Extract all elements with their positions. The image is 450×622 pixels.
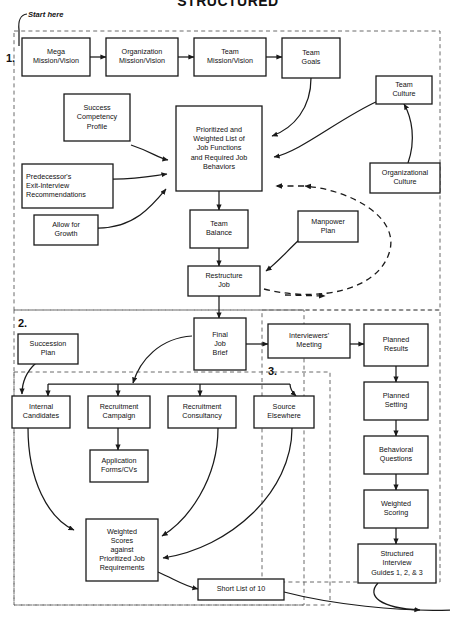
node-label: TeamGoals xyxy=(302,48,321,66)
start-here-label: Start here xyxy=(28,10,64,19)
node-label: Short List of 10 xyxy=(217,584,265,593)
node-label: OrganizationMission/Vision xyxy=(119,47,165,65)
node-label: RecruitmentConsultancy xyxy=(182,402,222,420)
node-source-elsewhere[interactable]: SourceElsewhere xyxy=(254,396,314,428)
edge-shortlist-outflow xyxy=(284,592,450,610)
node-predecessor-exit-interview[interactable]: Predecessor'sExit-InterviewRecommendatio… xyxy=(22,164,113,208)
node-restructure-job[interactable]: RestructureJob xyxy=(188,266,260,296)
node-label-line: Organization xyxy=(122,47,163,56)
node-label-line: Success xyxy=(83,103,111,112)
node-label-line: Competency xyxy=(77,112,118,121)
node-label-line: Questions xyxy=(380,454,413,463)
flowchart-diagram: STRUCTURED 1. 2. 3. Start here xyxy=(0,0,450,622)
node-label-line: Interview xyxy=(383,558,413,567)
node-team-goals[interactable]: TeamGoals xyxy=(282,38,340,78)
node-label-line: Behaviors xyxy=(203,162,235,171)
node-label-line: Prioritized Job xyxy=(99,554,145,563)
node-label-line: Application xyxy=(101,456,136,465)
node-team-culture[interactable]: TeamCulture xyxy=(376,76,432,104)
node-behavioral-questions[interactable]: BehavioralQuestions xyxy=(364,436,428,474)
edge-orgculture-to-teamculture xyxy=(404,104,412,163)
node-label: ApplicationForms/CVs xyxy=(101,456,137,474)
node-label: BehavioralQuestions xyxy=(379,445,413,463)
node-label-line: Culture xyxy=(392,89,415,98)
node-label-line: Planned xyxy=(383,335,409,344)
node-label-line: Job xyxy=(218,280,230,289)
node-label-line: Team xyxy=(395,80,413,89)
node-label-line: Short List of 10 xyxy=(217,584,265,593)
node-label-line: Allow for xyxy=(52,220,80,229)
node-label-line: Profile xyxy=(87,122,107,131)
node-allow-for-growth[interactable]: Allow forGrowth xyxy=(34,215,98,245)
node-label-line: Forms/CVs xyxy=(101,465,137,474)
node-weighted-scoring[interactable]: WeightedScoring xyxy=(364,490,428,528)
node-final-job-brief[interactable]: FinalJobBrief xyxy=(194,318,246,370)
node-short-list[interactable]: Short List of 10 xyxy=(198,579,284,600)
node-label-line: Recruitment xyxy=(100,402,139,411)
node-org-mission[interactable]: OrganizationMission/Vision xyxy=(106,38,178,76)
node-label-line: Manpower xyxy=(311,217,345,226)
node-label-line: against xyxy=(110,545,133,554)
node-succession-plan[interactable]: SuccessionPlan xyxy=(18,334,78,364)
node-label-line: Planned xyxy=(383,391,409,400)
node-label-line: Restructure xyxy=(205,271,242,280)
node-label: PlannedResults xyxy=(383,335,409,353)
node-label: PlannedSetting xyxy=(383,391,409,409)
node-team-mission[interactable]: TeamMission/Vision xyxy=(194,38,266,76)
node-success-competency-profile[interactable]: SuccessCompetencyProfile xyxy=(64,94,130,141)
node-label-line: Candidates xyxy=(23,411,60,420)
edge-bar-to-source-elsewhere xyxy=(290,384,296,396)
edge-success-to-prioritized xyxy=(131,145,168,160)
node-weighted-scores[interactable]: WeightedScoresagainstPrioritized JobRequ… xyxy=(86,519,158,581)
node-label-line: Mission/Vision xyxy=(119,56,165,65)
node-label-line: Recruitment xyxy=(183,402,222,411)
node-label-line: Setting xyxy=(385,400,407,409)
node-manpower-plan[interactable]: ManpowerPlan xyxy=(298,211,358,242)
node-label-line: Recommendations xyxy=(26,190,86,199)
node-interviewers-meeting[interactable]: Interviewers'Meeting xyxy=(268,324,350,358)
node-prioritized-weighted-list[interactable]: Prioritized andWeighted List ofJob Funct… xyxy=(176,106,262,191)
node-planned-results[interactable]: PlannedResults xyxy=(364,324,428,366)
node-mega-mission[interactable]: MegaMission/Vision xyxy=(22,38,90,76)
node-label-line: Behavioral xyxy=(379,445,413,454)
node-label-line: Growth xyxy=(54,229,77,238)
node-structured-interview-guides[interactable]: StructuredInterviewGuides 1, 2, & 3 xyxy=(358,544,436,583)
node-label-line: Final xyxy=(212,330,228,339)
node-label: RecruitmentCampaign xyxy=(100,402,139,420)
node-recruitment-campaign[interactable]: RecruitmentCampaign xyxy=(88,396,150,428)
node-label-line: Elsewhere xyxy=(267,411,301,420)
node-organizational-culture[interactable]: OrganizationalCulture xyxy=(370,163,440,193)
node-application-forms[interactable]: ApplicationForms/CVs xyxy=(90,450,148,482)
section-1-number: 1. xyxy=(6,52,15,64)
node-internal-candidates[interactable]: InternalCandidates xyxy=(12,396,70,428)
section-2-number: 2. xyxy=(18,317,27,329)
node-label-line: Weighted xyxy=(381,499,411,508)
node-label-line: Predecessor's xyxy=(26,172,72,181)
node-label: WeightedScoring xyxy=(381,499,411,517)
node-label-line: Structured xyxy=(380,549,413,558)
node-label-line: Consultancy xyxy=(182,411,222,420)
node-team-balance[interactable]: TeamBalance xyxy=(190,210,248,248)
node-label-line: Plan xyxy=(41,348,55,357)
node-label-line: Mission/Vision xyxy=(33,56,79,65)
node-label-line: Guides 1, 2, & 3 xyxy=(371,568,423,577)
node-label: FinalJobBrief xyxy=(212,330,228,357)
node-recruitment-consultancy[interactable]: RecruitmentConsultancy xyxy=(168,396,236,428)
node-label-line: Internal xyxy=(29,402,53,411)
node-label-line: Plan xyxy=(321,226,335,235)
node-label-line: Weighted xyxy=(107,527,137,536)
node-planned-setting[interactable]: PlannedSetting xyxy=(364,382,428,420)
edge-consultancy-to-scores xyxy=(162,428,218,536)
edge-internal-to-scores xyxy=(28,428,74,530)
node-label-line: and Required Job xyxy=(191,153,248,162)
node-label-line: Mission/Vision xyxy=(207,56,253,65)
node-label-line: Team xyxy=(221,47,239,56)
node-label-line: Balance xyxy=(206,228,232,237)
node-label-line: Goals xyxy=(302,57,321,66)
node-label-line: Exit-Interview xyxy=(26,181,70,190)
node-label-line: Interviewers' xyxy=(289,331,330,340)
edge-predecessor-to-prioritized xyxy=(113,174,167,179)
node-label-line: Requirements xyxy=(100,563,145,572)
edge-succession-to-internal xyxy=(22,363,36,394)
node-label-line: Organizational xyxy=(382,168,429,177)
